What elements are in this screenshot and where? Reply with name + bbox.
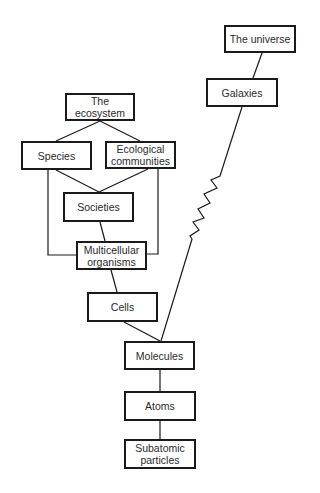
edge-ecological-societies [99, 169, 148, 192]
edge-societies-multicellular [100, 222, 105, 241]
node-the-ecosystem: The ecosystem [65, 93, 135, 121]
edge-ecological-multicellular [147, 169, 158, 254]
edge-multicellular-cells [111, 270, 117, 292]
node-atoms: Atoms [124, 391, 196, 421]
edge-cells-molecules [124, 322, 160, 341]
node-ecological-communities: Ecological communities [105, 141, 176, 169]
edge-universe-galaxies [253, 53, 262, 78]
node-the-universe: The universe [224, 25, 296, 53]
node-galaxies: Galaxies [206, 78, 278, 107]
node-molecules: Molecules [124, 341, 195, 370]
node-multicellular-organisms: Multicellular organisms [76, 241, 147, 270]
edge-species-societies [56, 170, 99, 192]
edge-ecosystem-species [56, 121, 100, 141]
node-species: Species [21, 141, 92, 170]
edge-ecosystem-ecological [100, 121, 140, 141]
node-subatomic-particles: Subatomic particles [124, 439, 196, 469]
node-cells: Cells [87, 292, 158, 322]
node-societies: Societies [63, 192, 134, 222]
